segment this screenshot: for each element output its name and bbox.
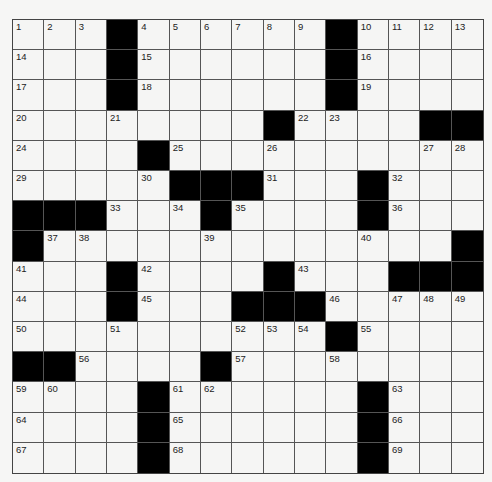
grid-cell[interactable] [326, 171, 357, 201]
grid-cell[interactable] [170, 231, 201, 261]
grid-cell[interactable]: 49 [452, 292, 483, 322]
grid-cell[interactable] [76, 262, 107, 292]
grid-cell[interactable] [170, 352, 201, 382]
grid-cell[interactable] [326, 201, 357, 231]
grid-cell[interactable] [295, 171, 326, 201]
grid-cell[interactable]: 21 [107, 111, 138, 141]
grid-cell[interactable] [295, 413, 326, 443]
grid-cell[interactable] [264, 443, 295, 473]
grid-cell[interactable] [170, 292, 201, 322]
grid-cell[interactable]: 1 [13, 20, 44, 50]
grid-cell[interactable] [389, 231, 420, 261]
grid-cell[interactable]: 58 [326, 352, 357, 382]
grid-cell[interactable]: 8 [264, 20, 295, 50]
grid-cell[interactable] [326, 262, 357, 292]
grid-cell[interactable] [358, 352, 389, 382]
grid-cell[interactable] [264, 382, 295, 412]
grid-cell[interactable] [201, 141, 232, 171]
grid-cell[interactable] [76, 50, 107, 80]
grid-cell[interactable] [389, 50, 420, 80]
grid-cell[interactable] [232, 262, 263, 292]
grid-cell[interactable] [138, 201, 169, 231]
grid-cell[interactable]: 17 [13, 80, 44, 110]
grid-cell[interactable]: 2 [44, 20, 75, 50]
grid-cell[interactable] [138, 111, 169, 141]
grid-cell[interactable] [358, 292, 389, 322]
grid-cell[interactable]: 9 [295, 20, 326, 50]
grid-cell[interactable] [44, 262, 75, 292]
grid-cell[interactable] [201, 322, 232, 352]
grid-cell[interactable] [295, 141, 326, 171]
grid-cell[interactable]: 48 [420, 292, 451, 322]
grid-cell[interactable] [295, 352, 326, 382]
grid-cell[interactable]: 18 [138, 80, 169, 110]
grid-cell[interactable] [326, 413, 357, 443]
grid-cell[interactable]: 12 [420, 20, 451, 50]
grid-cell[interactable]: 54 [295, 322, 326, 352]
grid-cell[interactable] [232, 80, 263, 110]
grid-cell[interactable] [107, 443, 138, 473]
grid-cell[interactable] [295, 50, 326, 80]
grid-cell[interactable] [420, 50, 451, 80]
grid-cell[interactable] [170, 262, 201, 292]
grid-cell[interactable]: 24 [13, 141, 44, 171]
grid-cell[interactable] [170, 80, 201, 110]
grid-cell[interactable]: 43 [295, 262, 326, 292]
grid-cell[interactable] [44, 292, 75, 322]
grid-cell[interactable] [264, 231, 295, 261]
grid-cell[interactable]: 64 [13, 413, 44, 443]
grid-cell[interactable]: 35 [232, 201, 263, 231]
grid-cell[interactable]: 13 [452, 20, 483, 50]
grid-cell[interactable]: 68 [170, 443, 201, 473]
grid-cell[interactable] [452, 413, 483, 443]
grid-cell[interactable]: 63 [389, 382, 420, 412]
grid-cell[interactable]: 26 [264, 141, 295, 171]
grid-cell[interactable] [420, 443, 451, 473]
grid-cell[interactable] [201, 50, 232, 80]
grid-cell[interactable]: 29 [13, 171, 44, 201]
grid-cell[interactable]: 53 [264, 322, 295, 352]
grid-cell[interactable]: 22 [295, 111, 326, 141]
grid-cell[interactable] [452, 50, 483, 80]
grid-cell[interactable] [264, 352, 295, 382]
grid-cell[interactable] [452, 352, 483, 382]
grid-cell[interactable]: 51 [107, 322, 138, 352]
grid-cell[interactable] [201, 443, 232, 473]
grid-cell[interactable] [264, 201, 295, 231]
grid-cell[interactable]: 34 [170, 201, 201, 231]
grid-cell[interactable]: 65 [170, 413, 201, 443]
grid-cell[interactable] [44, 171, 75, 201]
grid-cell[interactable] [201, 80, 232, 110]
grid-cell[interactable]: 38 [76, 231, 107, 261]
grid-cell[interactable] [76, 292, 107, 322]
grid-cell[interactable] [107, 141, 138, 171]
grid-cell[interactable]: 20 [13, 111, 44, 141]
grid-cell[interactable] [44, 413, 75, 443]
grid-cell[interactable] [44, 443, 75, 473]
grid-cell[interactable] [452, 443, 483, 473]
grid-cell[interactable]: 56 [76, 352, 107, 382]
grid-cell[interactable] [201, 262, 232, 292]
grid-cell[interactable]: 32 [389, 171, 420, 201]
grid-cell[interactable] [452, 171, 483, 201]
grid-cell[interactable] [44, 111, 75, 141]
grid-cell[interactable]: 59 [13, 382, 44, 412]
grid-cell[interactable] [232, 141, 263, 171]
grid-cell[interactable] [389, 111, 420, 141]
grid-cell[interactable]: 61 [170, 382, 201, 412]
grid-cell[interactable]: 6 [201, 20, 232, 50]
grid-cell[interactable] [76, 443, 107, 473]
grid-cell[interactable] [358, 141, 389, 171]
grid-cell[interactable]: 15 [138, 50, 169, 80]
grid-cell[interactable] [420, 382, 451, 412]
grid-cell[interactable] [201, 292, 232, 322]
grid-cell[interactable] [295, 201, 326, 231]
grid-cell[interactable] [44, 141, 75, 171]
grid-cell[interactable]: 44 [13, 292, 44, 322]
grid-cell[interactable]: 67 [13, 443, 44, 473]
grid-cell[interactable] [232, 443, 263, 473]
grid-cell[interactable] [420, 413, 451, 443]
grid-cell[interactable] [264, 50, 295, 80]
grid-cell[interactable]: 50 [13, 322, 44, 352]
grid-cell[interactable] [76, 111, 107, 141]
